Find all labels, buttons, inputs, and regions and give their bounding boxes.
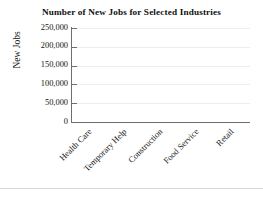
y-axis-tick-mark: [72, 84, 77, 85]
y-axis-tick-mark: [72, 122, 77, 123]
figure-bottom-rule: [0, 188, 263, 189]
chart-figure: Number of New Jobs for Selected Industri…: [0, 0, 263, 200]
y-axis-tick-mark: [72, 66, 77, 67]
x-axis-tick-labels: Health CareTemporary HelpConstructionFoo…: [0, 0, 263, 200]
y-axis-tick-mark: [72, 47, 77, 48]
y-axis-tick-mark: [72, 28, 77, 29]
y-axis-tick-mark: [72, 103, 77, 104]
